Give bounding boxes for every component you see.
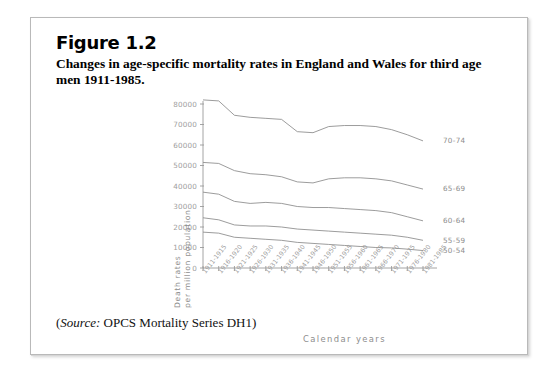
figure-number: Figure 1.2 [56,32,156,53]
x-axis-label: Calendar years [303,334,386,344]
y-tick-label: 0 [192,264,197,273]
series-label-55-59: 55-59 [443,236,466,245]
figure-title: Changes in age-specific mortality rates … [56,56,496,87]
source-text: OPCS Mortality Series DH1) [100,315,256,330]
y-axis-label-line2: per million population [183,209,192,308]
y-tick-label: 40000 [173,182,197,191]
source-italic-label: Source: [60,315,100,330]
y-tick-label: 50000 [173,161,197,170]
series-line-60-64 [203,192,423,221]
series-line-65-69 [203,162,423,189]
y-tick-label: 80000 [173,100,197,109]
y-tick-label: 60000 [173,141,197,150]
y-tick-label: 70000 [173,120,197,129]
series-line-70-74 [203,100,423,141]
figure-frame: Figure 1.2 Changes in age-specific morta… [30,17,528,355]
series-label-50-54: 50-54 [443,246,466,255]
series-label-65-69: 65-69 [443,184,466,193]
series-label-70-74: 70-74 [443,136,466,145]
figure-page: Figure 1.2 Changes in age-specific morta… [0,0,558,372]
series-label-60-64: 60-64 [443,216,466,225]
y-axis-label-line1: Death rates [173,256,182,308]
chart-container: 0100002000030000400005000060000700008000… [131,96,501,311]
source-line: (Source: OPCS Mortality Series DH1) [56,315,256,331]
